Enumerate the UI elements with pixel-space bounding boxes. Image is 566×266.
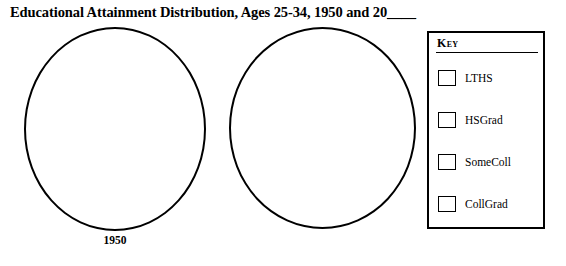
legend-item-hsgrad[interactable]: HSGrad [429, 99, 543, 141]
legend-title-divider [436, 52, 538, 53]
legend-swatch-icon-collgrad [438, 196, 456, 212]
legend-swatch-icon-lths [438, 70, 456, 86]
legend-swatch-icon-hsgrad [438, 112, 456, 128]
page-title-blank: ____ [387, 4, 416, 20]
pie-chart-1950[interactable] [24, 27, 206, 231]
legend-box: Key LTHS HSGrad SomeColl CollGrad [427, 31, 545, 229]
pie-chart-second-year[interactable] [229, 27, 416, 229]
legend-item-collgrad[interactable]: CollGrad [429, 183, 543, 225]
legend-item-list: LTHS HSGrad SomeColl CollGrad [429, 57, 543, 225]
legend-label-lths: LTHS [465, 72, 493, 85]
legend-label-somecoll: SomeColl [465, 156, 511, 169]
legend-label-hsgrad: HSGrad [465, 114, 503, 127]
pie-chart-caption-1950: 1950 [75, 233, 155, 247]
legend-title: Key [437, 36, 458, 50]
pie-chart-caption-second-year [282, 233, 362, 247]
legend-label-collgrad: CollGrad [465, 198, 508, 211]
legend-item-lths[interactable]: LTHS [429, 57, 543, 99]
legend-swatch-icon-somecoll [438, 154, 456, 170]
page-title-text: Educational Attainment Distribution, Age… [10, 4, 387, 20]
legend-item-somecoll[interactable]: SomeColl [429, 141, 543, 183]
page-title: Educational Attainment Distribution, Age… [10, 3, 416, 21]
